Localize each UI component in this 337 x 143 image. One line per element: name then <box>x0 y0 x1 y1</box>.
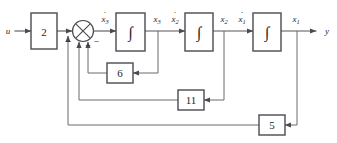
input-gain-label: 2 <box>41 26 47 38</box>
x2-sub: 2 <box>224 18 228 25</box>
x2dot-sub: 2 <box>175 18 179 25</box>
block-diagram-svg: 2 ∫ ∫ ∫ 6 11 5 − − − u y · x3 <box>0 0 337 143</box>
sum-sign-left: − <box>66 36 72 47</box>
x3dot-sub: 3 <box>104 18 109 25</box>
x3dot-label: x3 <box>100 14 109 25</box>
feedback-gain-6-label: 6 <box>117 67 123 79</box>
output-label: y <box>324 26 329 36</box>
sum-sign-right: − <box>94 36 100 47</box>
feedback-gain-5-label: 5 <box>269 119 275 131</box>
x1dot-label: x1 <box>237 14 245 25</box>
input-label: u <box>6 26 11 36</box>
x1-label: x1 <box>291 14 299 25</box>
x3-sub: 3 <box>156 18 161 25</box>
x2-label: x2 <box>219 14 228 25</box>
x1dot-sub: 1 <box>242 18 245 25</box>
sum-sign-bottom: − <box>85 40 91 51</box>
feedback-gain-11-label: 11 <box>186 94 197 106</box>
block-diagram-canvas: 2 ∫ ∫ ∫ 6 11 5 − − − u y · x3 <box>0 0 337 143</box>
x3-label: x3 <box>152 14 161 25</box>
x1-sub: 1 <box>296 18 299 25</box>
x2dot-label: x2 <box>170 14 179 25</box>
